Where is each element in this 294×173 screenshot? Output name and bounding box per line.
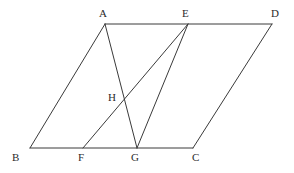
- geometry-figure: A E D H B F G C: [0, 0, 294, 173]
- vertex-label-F: F: [78, 152, 84, 163]
- vertex-label-B: B: [12, 152, 19, 163]
- vertex-label-E: E: [182, 8, 189, 19]
- vertex-label-H: H: [108, 92, 116, 103]
- vertex-label-C: C: [192, 152, 199, 163]
- vertex-label-D: D: [271, 8, 279, 19]
- segment-A-B: [30, 24, 105, 148]
- segment-E-G: [137, 24, 188, 148]
- vertex-label-G: G: [131, 152, 139, 163]
- segment-D-C: [193, 24, 272, 148]
- vertex-label-A: A: [99, 8, 107, 19]
- segment-E-F: [83, 24, 188, 148]
- segment-A-G: [105, 24, 137, 148]
- geometry-canvas: [0, 0, 294, 173]
